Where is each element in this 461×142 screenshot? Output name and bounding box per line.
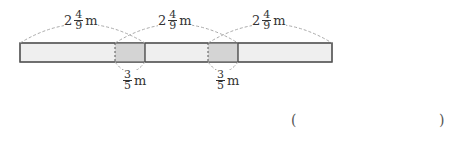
answer-blank[interactable] <box>300 112 436 130</box>
answer-open-paren: ( <box>291 112 296 128</box>
tape-1-length-label: 2 49 m <box>64 10 98 31</box>
tape-strip <box>20 43 332 62</box>
overlap-2 <box>208 43 238 62</box>
tape-2-length-label: 2 49 m <box>158 10 192 31</box>
overlap-2-label: 35 m <box>214 70 239 91</box>
answer-close-paren: ) <box>439 112 444 128</box>
overlap-1-label: 35 m <box>121 70 146 91</box>
tape-3-length-label: 2 49 m <box>252 10 286 31</box>
overlap-1 <box>115 43 145 62</box>
